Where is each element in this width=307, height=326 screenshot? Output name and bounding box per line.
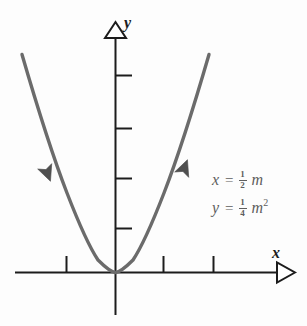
parametric-equations: x = 1 2 m y = 1 4 m2 [212, 166, 307, 222]
y-axis-arrowhead-icon [105, 22, 126, 38]
equation-x-lhs: x [212, 172, 219, 188]
equation-y-equals: = [225, 201, 233, 216]
x-axis-group [15, 256, 295, 283]
equation-y-fraction: 1 4 [239, 198, 247, 219]
equation-y-row: y = 1 4 m2 [212, 194, 307, 222]
direction-arrow-left-branch-icon [38, 164, 58, 184]
equation-x-denominator: 2 [239, 181, 246, 190]
equation-y-denominator: 4 [239, 209, 246, 218]
equation-y-numerator: 1 [239, 198, 246, 207]
equation-y-unit: m [252, 200, 264, 216]
figure-canvas [0, 0, 307, 326]
equation-x-fraction: 1 2 [239, 170, 247, 191]
equation-x-row: x = 1 2 m [212, 166, 307, 194]
equation-x-unit: m [252, 172, 264, 188]
equation-y-lhs: y [212, 200, 219, 216]
x-axis-label: x [272, 244, 280, 262]
equation-x-numerator: 1 [239, 170, 246, 179]
parabola-figure: y x x = 1 2 m y = 1 4 m2 [0, 0, 307, 326]
y-axis-label: y [124, 14, 131, 32]
equation-x-equals: = [225, 173, 233, 188]
x-axis-arrowhead-icon [277, 263, 295, 283]
